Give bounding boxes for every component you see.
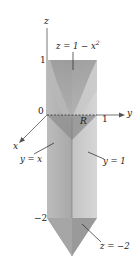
z-axis-label: z bbox=[44, 17, 49, 26]
region-r-label: R bbox=[80, 117, 87, 126]
top-surface-label: z = 1 − x2 bbox=[56, 40, 100, 50]
y-tick-1: 1 bbox=[102, 115, 108, 124]
bottom-plane-label: z = −2 bbox=[100, 242, 130, 251]
z-tick-1: 1 bbox=[40, 56, 46, 65]
bottom-plane-z-neg2 bbox=[72, 218, 97, 256]
plane-y-eq-1-label: y = 1 bbox=[103, 157, 126, 166]
origin-label: 0 bbox=[38, 107, 44, 116]
y-axis-label: y bbox=[127, 109, 132, 118]
top-surface-text: z = 1 − x bbox=[56, 41, 96, 51]
plane-y-eq-x-label: y = x bbox=[20, 155, 42, 164]
bottom-left-face bbox=[47, 218, 72, 256]
z-tick-neg2: −2 bbox=[34, 214, 47, 223]
x-axis bbox=[21, 115, 47, 141]
top-surface-exponent: 2 bbox=[96, 39, 100, 46]
solid-region-diagram: z 1 z = 1 − x2 0 R 1 y x y = x y = 1 −2 … bbox=[0, 0, 138, 273]
x-axis-label: x bbox=[13, 142, 18, 151]
y-axis-arrow-icon bbox=[119, 113, 125, 118]
